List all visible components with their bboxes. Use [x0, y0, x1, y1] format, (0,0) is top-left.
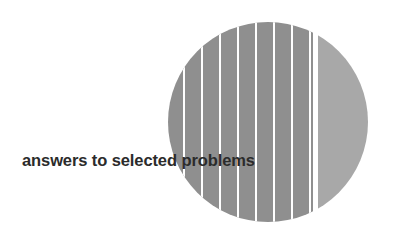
stripe	[237, 0, 239, 240]
stripe	[273, 0, 275, 240]
stripe	[291, 0, 293, 240]
cover-artwork	[0, 0, 398, 240]
cover-page: answers to selected problems	[0, 0, 398, 240]
stripe	[219, 0, 221, 240]
striped-disc-section	[168, 0, 313, 240]
stripe	[309, 0, 311, 240]
stripe	[255, 0, 257, 240]
crescent-section	[318, 0, 398, 240]
stripe	[183, 0, 185, 240]
split-circle-graphic	[0, 0, 398, 240]
crescent-fill	[318, 0, 398, 240]
stripe	[201, 0, 203, 240]
cover-title: answers to selected problems	[22, 151, 255, 170]
